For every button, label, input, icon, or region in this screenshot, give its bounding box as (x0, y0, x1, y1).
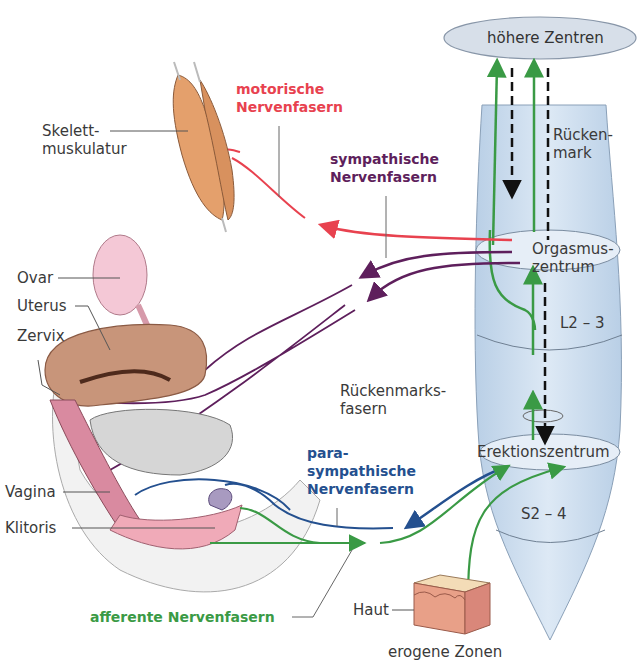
clitoris-illustration (209, 489, 232, 510)
motor-fibers-label: motorische Nervenfasern (236, 80, 343, 116)
uterus-illustration (45, 324, 207, 406)
clitoris-label: Klitoris (5, 519, 56, 537)
bladder-illustration (90, 409, 233, 475)
ovary-label: Ovar (17, 269, 53, 287)
afferent-label-leader (292, 550, 352, 617)
skeletal-muscle-illustration (173, 62, 234, 232)
erogenous-zones-label: erogene Zonen (388, 643, 502, 661)
cervix-label: Zervix (17, 327, 65, 345)
segment-s2-4-label: S2 – 4 (521, 505, 567, 523)
spinal-fibers-label: Rückenmarks- fasern (340, 382, 446, 418)
motor-fiber-to-muscle (222, 149, 305, 218)
erection-center-label: Erektionszentrum (477, 443, 610, 461)
skin-block-illustration (414, 575, 490, 634)
uterus-label: Uterus (17, 297, 67, 315)
spinal-cord-label: Rücken- mark (553, 126, 613, 162)
vagina-label: Vagina (5, 483, 56, 501)
sympathetic-fibers-label: sympathische Nervenfasern (330, 150, 439, 186)
orgasm-center-label: Orgasmus- zentrum (532, 240, 614, 276)
ovary-illustration (93, 235, 147, 315)
skin-label: Haut (353, 601, 389, 619)
afferent-fibers-label: afferente Nervenfasern (90, 608, 275, 626)
higher-centers-label: höhere Zentren (487, 29, 604, 47)
skeletal-muscle-label: Skelett- muskulatur (42, 122, 127, 158)
segment-l2-3-label: L2 – 3 (560, 314, 604, 332)
parasympathetic-fibers-label: para- sympathische Nervenfasern (307, 444, 416, 498)
